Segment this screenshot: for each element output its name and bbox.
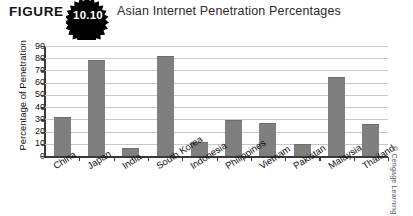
x-tick-mark	[79, 157, 80, 161]
x-tick-mark	[217, 157, 218, 161]
y-tick-label: 20	[11, 127, 45, 136]
y-tick-label: 70	[11, 66, 45, 75]
x-tick-mark	[148, 157, 149, 161]
x-axis-labels: ChinaJapanIndiaSouth KoreaIndonesiaPhili…	[45, 162, 388, 216]
figure-number-badge: 10.10	[66, 0, 110, 40]
figure-header: FIGURE 10.10 Asian Internet Penetration …	[0, 0, 413, 34]
gridline	[45, 46, 388, 47]
y-tick-label: 10	[11, 139, 45, 148]
x-tick-mark	[354, 157, 355, 161]
x-tick-mark	[114, 157, 115, 161]
bar	[328, 77, 345, 156]
credit-line: © Cengage Learning	[391, 146, 398, 214]
figure-title: Asian Internet Penetration Percentages	[117, 4, 341, 18]
figure-label: FIGURE	[9, 4, 64, 19]
x-tick-mark	[251, 157, 252, 161]
y-tick-label: 90	[11, 42, 45, 51]
x-tick-mark	[182, 157, 183, 161]
bar-chart: Percentage of Penetration 01020304050607…	[0, 38, 413, 216]
y-tick-label: 40	[11, 103, 45, 112]
x-tick-mark	[285, 157, 286, 161]
x-tick-mark	[388, 157, 389, 161]
y-tick-label: 60	[11, 78, 45, 87]
x-tick-mark	[319, 157, 320, 161]
y-tick-label: 50	[11, 90, 45, 99]
y-tick-label: 80	[11, 54, 45, 63]
bar	[88, 60, 105, 156]
bar	[157, 56, 174, 156]
y-tick-label: 30	[11, 115, 45, 124]
figure-number-text: 10.10	[66, 0, 110, 34]
plot-area	[45, 46, 388, 156]
y-tick-label: 0	[11, 152, 45, 161]
y-axis-ticks: 0102030405060708090	[0, 38, 45, 168]
